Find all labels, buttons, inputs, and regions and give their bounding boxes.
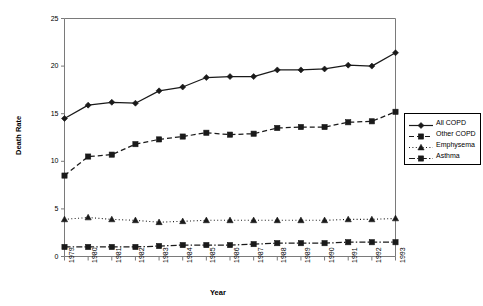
y-tick-label: 5 bbox=[37, 205, 59, 212]
series-emphysema bbox=[61, 214, 398, 224]
data-series-layer bbox=[61, 50, 398, 250]
x-tick-label: 1986 bbox=[233, 247, 240, 263]
legend-label: All COPD bbox=[434, 117, 466, 128]
x-tick-label: 1993 bbox=[399, 247, 406, 263]
legend-marker-icon bbox=[408, 150, 434, 161]
x-tick-label: 1992 bbox=[375, 247, 382, 263]
x-tick-label: 1985 bbox=[209, 247, 216, 263]
y-tick-label: 10 bbox=[37, 157, 59, 164]
axis-ticks bbox=[61, 19, 396, 261]
series-all-copd bbox=[62, 50, 399, 122]
x-tick-label: 1988 bbox=[280, 247, 287, 263]
x-tick-label: 1981 bbox=[115, 247, 122, 263]
legend-item-asthma[interactable]: Asthma bbox=[408, 150, 476, 161]
legend-item-all-copd[interactable]: All COPD bbox=[408, 117, 476, 128]
y-tick-label: 15 bbox=[37, 110, 59, 117]
legend-marker-icon bbox=[408, 139, 434, 150]
y-tick-label: 20 bbox=[37, 62, 59, 69]
y-tick-label: 0 bbox=[37, 253, 59, 260]
legend-label: Emphysema bbox=[434, 139, 475, 150]
x-tick-label: 1990 bbox=[328, 247, 335, 263]
legend-label: Asthma bbox=[434, 150, 460, 161]
legend-item-emphysema[interactable]: Emphysema bbox=[408, 139, 476, 150]
x-tick-label: 1984 bbox=[186, 247, 193, 263]
x-tick-label: 1979 bbox=[68, 247, 75, 263]
x-axis-title: Year bbox=[210, 288, 226, 297]
legend-marker-icon bbox=[408, 128, 434, 139]
x-tick-label: 1982 bbox=[138, 247, 145, 263]
series-asthma bbox=[62, 240, 398, 250]
x-tick-label: 1980 bbox=[91, 247, 98, 263]
legend-item-other-copd[interactable]: Other COPD bbox=[408, 128, 476, 139]
legend-marker-icon bbox=[408, 117, 434, 128]
y-axis-title: Death Rate bbox=[14, 116, 23, 155]
chart-container: 0510152025 19791980198119821983198419851… bbox=[0, 0, 483, 306]
x-tick-label: 1991 bbox=[351, 247, 358, 263]
legend-label: Other COPD bbox=[434, 128, 476, 139]
y-tick-label: 25 bbox=[37, 15, 59, 22]
x-tick-label: 1983 bbox=[162, 247, 169, 263]
x-tick-label: 1989 bbox=[304, 247, 311, 263]
chart-legend: All COPDOther COPDEmphysemaAsthma bbox=[404, 113, 481, 165]
x-tick-label: 1987 bbox=[257, 247, 264, 263]
series-other-copd bbox=[62, 109, 398, 178]
